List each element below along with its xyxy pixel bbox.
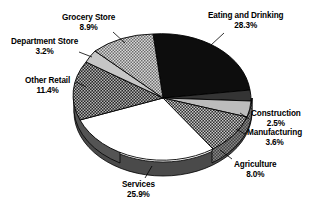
slice-label-department-store: Department Store 3.2% bbox=[11, 37, 78, 56]
slice-label-manufacturing: Manufacturing 3.6% bbox=[247, 128, 302, 147]
leader-line-eating-and-drinking bbox=[211, 33, 224, 45]
slice-label-name: Manufacturing bbox=[247, 128, 302, 138]
slice-label-percent: 8.0% bbox=[234, 170, 277, 180]
pie-slice-eating-and-drinking bbox=[153, 34, 250, 98]
slice-label-percent: 25.9% bbox=[122, 190, 155, 200]
slice-label-services: Services 25.9% bbox=[122, 180, 155, 199]
slice-label-eating-and-drinking: Eating and Drinking 28.3% bbox=[208, 11, 283, 30]
leader-line-department-store bbox=[79, 52, 92, 57]
slice-label-percent: 3.6% bbox=[247, 138, 302, 148]
slice-label-grocery-store: Grocery Store 8.9% bbox=[62, 13, 115, 32]
slice-label-name: Grocery Store bbox=[62, 13, 115, 23]
slice-label-percent: 2.5% bbox=[251, 119, 301, 129]
slice-label-name: Other Retail bbox=[25, 76, 70, 86]
pie-slices bbox=[73, 34, 251, 161]
slice-label-agriculture: Agriculture 8.0% bbox=[234, 160, 277, 179]
slice-label-percent: 28.3% bbox=[208, 21, 283, 31]
slice-label-percent: 3.2% bbox=[11, 47, 78, 57]
slice-label-name: Services bbox=[122, 180, 155, 190]
slice-label-name: Agriculture bbox=[234, 160, 277, 170]
slice-label-percent: 11.4% bbox=[25, 86, 70, 96]
pie-chart: Eating and Drinking 28.3% Construction 2… bbox=[0, 0, 325, 209]
slice-label-name: Construction bbox=[251, 109, 301, 119]
slice-label-name: Eating and Drinking bbox=[208, 11, 283, 21]
slice-label-name: Department Store bbox=[11, 37, 78, 47]
slice-label-other-retail: Other Retail 11.4% bbox=[25, 76, 70, 95]
slice-label-construction: Construction 2.5% bbox=[251, 109, 301, 128]
slice-label-percent: 8.9% bbox=[62, 23, 115, 33]
